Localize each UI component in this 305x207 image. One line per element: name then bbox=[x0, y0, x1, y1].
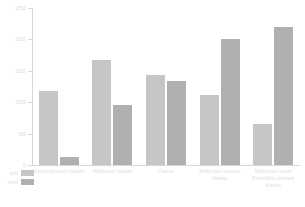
y-tick-label: 50 bbox=[19, 131, 26, 137]
bar-hard[interactable] bbox=[274, 27, 293, 165]
x-axis-line bbox=[32, 165, 300, 166]
bar-group bbox=[139, 8, 193, 165]
bar-chart: 050100150200250 Sandingstones bladesMult… bbox=[0, 0, 305, 207]
x-axis-label: Flakes bbox=[139, 168, 193, 189]
y-tick-label: 0 bbox=[22, 162, 26, 168]
bar-hard[interactable] bbox=[221, 39, 240, 165]
bar-soft[interactable] bbox=[39, 91, 58, 165]
legend-item-hard: hard bbox=[3, 179, 34, 185]
legend-item-soft: soft bbox=[3, 170, 34, 176]
y-tick-label: 250 bbox=[15, 5, 26, 11]
x-axis-labels: Sandingstones bladesMultimber bladesFlak… bbox=[32, 168, 300, 189]
bar-groups bbox=[32, 8, 300, 165]
legend-label-hard: hard bbox=[3, 179, 18, 185]
bar-group bbox=[193, 8, 247, 165]
bar-group bbox=[32, 8, 86, 165]
bar-soft[interactable] bbox=[200, 95, 219, 165]
bar-hard[interactable] bbox=[113, 105, 132, 165]
bar-soft[interactable] bbox=[253, 124, 272, 165]
x-axis-label: Multimber upper Paleolithic crested blad… bbox=[246, 168, 300, 189]
y-tick-label: 100 bbox=[15, 99, 26, 105]
legend-swatch-soft bbox=[21, 170, 34, 176]
x-axis-label: Sandingstones blades bbox=[32, 168, 86, 189]
bar-soft[interactable] bbox=[92, 60, 111, 166]
x-axis-label: Multimber crested blades bbox=[193, 168, 247, 189]
legend-swatch-hard bbox=[21, 179, 34, 185]
x-axis-label: Multimber blades bbox=[86, 168, 140, 189]
bar-group bbox=[86, 8, 140, 165]
bar-hard[interactable] bbox=[60, 157, 79, 165]
chart-legend: soft hard bbox=[3, 170, 34, 185]
legend-label-soft: soft bbox=[3, 170, 18, 176]
bar-group bbox=[246, 8, 300, 165]
y-tick-mark bbox=[28, 165, 32, 166]
bar-hard[interactable] bbox=[167, 81, 186, 165]
y-tick-label: 200 bbox=[15, 36, 26, 42]
plot-area: 050100150200250 bbox=[32, 8, 300, 165]
bar-soft[interactable] bbox=[146, 75, 165, 165]
y-tick-label: 150 bbox=[15, 68, 26, 74]
